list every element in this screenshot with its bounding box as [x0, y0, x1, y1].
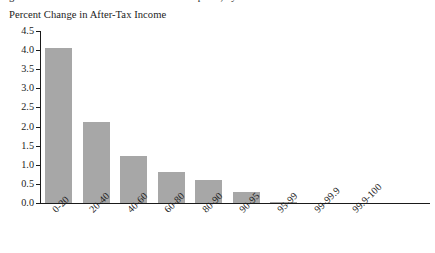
plot-area: 4.54.03.53.02.52.01.51.00.50.0 0-2020-40…	[0, 0, 435, 253]
bar-series	[0, 0, 435, 253]
chart-screenshot: Figure 2. Distributional Effects of the …	[0, 0, 435, 253]
bar	[45, 48, 72, 203]
